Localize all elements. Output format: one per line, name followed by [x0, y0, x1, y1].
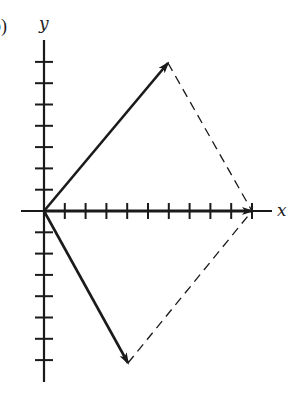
- parallelogram-side-lower: [128, 211, 252, 363]
- vector-addition-diagram: b) y x: [0, 0, 287, 400]
- lower-vector-arrow: [44, 211, 128, 363]
- x-axis-label: x: [277, 200, 287, 220]
- y-axis-label: y: [38, 13, 49, 33]
- upper-vector-arrow: [44, 63, 168, 211]
- panel-label: b): [0, 16, 7, 37]
- parallelogram-side-upper: [168, 63, 252, 211]
